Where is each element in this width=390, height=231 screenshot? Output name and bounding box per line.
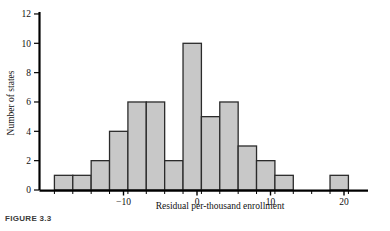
y-axis-title: Number of states [6,70,16,135]
y-tick-label: 10 [22,39,32,49]
x-axis-title: Residual per-thousand enrollment [156,201,285,211]
histogram-bar [220,102,238,190]
histogram-chart: −1001020 024681012 Residual per-thousand… [0,0,390,231]
histogram-figure: −1001020 024681012 Residual per-thousand… [0,0,390,231]
histogram-bar [128,102,146,190]
y-axis-ticks: 024681012 [22,9,40,195]
histogram-bar [165,161,183,190]
y-tick-label: 4 [26,127,31,137]
histogram-bar [91,161,109,190]
histogram-bar [54,175,72,190]
y-tick-label: 6 [26,97,31,107]
y-tick-label: 2 [26,156,31,166]
x-tick-label: 20 [339,197,349,207]
histogram-bar [275,175,293,190]
figure-caption: FIGURE 3.3 [5,214,52,223]
histogram-bar [110,131,128,190]
histogram-bar [257,161,275,190]
histogram-bar [238,146,256,190]
histogram-bar [330,175,348,190]
y-tick-label: 0 [26,185,31,195]
histogram-bar [146,102,164,190]
x-tick-label: −10 [116,197,131,207]
histogram-bar [183,43,201,190]
histogram-bar [73,175,91,190]
histogram-bar [201,117,219,190]
y-tick-label: 12 [22,9,32,19]
y-tick-label: 8 [26,68,31,78]
bars-group [54,43,348,190]
